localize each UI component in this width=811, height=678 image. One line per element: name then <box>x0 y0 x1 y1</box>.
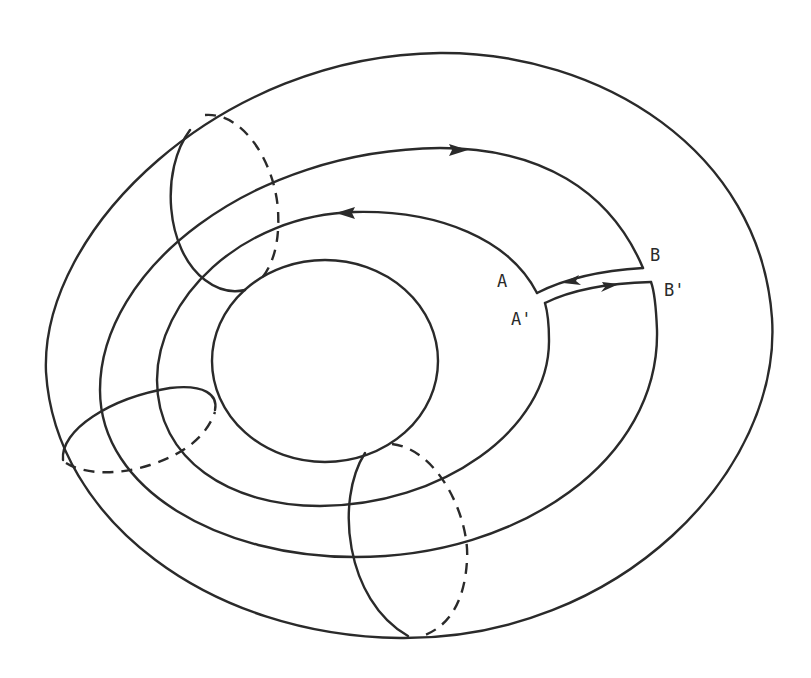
arrow-right-icon <box>449 144 468 156</box>
meridian-bottom-front <box>349 453 408 636</box>
label-a-prime: A' <box>511 309 531 329</box>
outer-loop-path <box>100 148 657 557</box>
inner-loop-path <box>157 212 549 506</box>
torus-diagram: A A' B B' <box>0 0 811 678</box>
label-b: B <box>650 245 660 265</box>
label-a: A <box>497 271 507 291</box>
torus-outer-boundary <box>46 53 773 638</box>
label-b-prime: B' <box>664 280 684 300</box>
cut-lower-edge <box>545 282 651 303</box>
meridian-left-top <box>63 387 216 460</box>
meridian-upper-left-front <box>171 130 245 291</box>
